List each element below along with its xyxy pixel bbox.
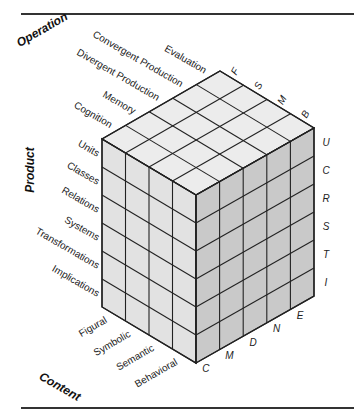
product-code: U (322, 137, 330, 148)
content-label: Semantic (114, 342, 156, 372)
operation-title: Operation (14, 9, 70, 49)
product-label: Systems (63, 214, 102, 243)
product-title: Product (23, 146, 37, 192)
content-code: F (228, 65, 241, 77)
operation-label: Divergent Production (75, 47, 161, 103)
product-code: I (325, 277, 328, 288)
content-label: Figural (77, 314, 109, 339)
operation-code: C (202, 363, 210, 374)
content-label: Behavioral (133, 356, 179, 389)
operation-code: E (297, 310, 304, 321)
product-code: C (322, 165, 330, 176)
operation-code: M (225, 350, 234, 361)
product-code: R (322, 193, 329, 204)
product-code: T (323, 249, 330, 260)
operation-code: N (273, 323, 281, 334)
content-code: B (299, 108, 312, 120)
product-label: Units (76, 138, 101, 159)
product-label: Classes (65, 159, 101, 186)
product-code: S (323, 221, 330, 232)
product-label: Relations (60, 184, 102, 214)
content-title: Content (37, 369, 84, 404)
operation-code: D (249, 337, 256, 348)
content-code: M (275, 93, 289, 106)
operation-label: Memory (101, 89, 138, 117)
operation-label: Cognition (72, 99, 114, 130)
content-code: S (252, 80, 265, 92)
cube (102, 71, 314, 363)
soi-cube-diagram: EvaluationConvergent ProductionDivergent… (0, 0, 354, 418)
content-label: Symbolic (92, 328, 133, 358)
